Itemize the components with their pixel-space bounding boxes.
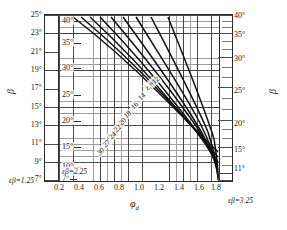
left-axis-tick-label: 19° <box>22 65 42 74</box>
inner-scale-tick-label: 20° <box>61 116 74 125</box>
plot-area: 40° 35° 30° 25° 20° 15° 10° 7° εβ=2.25 z… <box>58 14 220 182</box>
left-axis-tick-label: 13° <box>22 120 42 129</box>
x-axis-tick-label: 1.8 <box>211 184 221 192</box>
right-axis-tick-label: 15° <box>234 145 245 154</box>
epsilon-beta-left-label: εβ=1.25 <box>9 176 34 185</box>
left-axis-tick-label: 17° <box>22 83 42 92</box>
x-axis-title: φd <box>130 198 139 211</box>
x-axis-tick-label: 0.4 <box>74 184 84 192</box>
left-axis-tick-label: 11° <box>22 138 42 147</box>
left-axis-tick-label: 15° <box>22 102 42 111</box>
x-axis-tick-label: 0.6 <box>94 184 104 192</box>
x-axis-tick-label: 1.4 <box>174 184 184 192</box>
right-axis-tick-label: 40° <box>234 11 245 20</box>
chart-figure: 25° 23° 21° 19° 17° 15° 13° 11° 9° 7° β … <box>0 0 287 230</box>
inner-scale-tick-label: 15° <box>61 142 74 151</box>
x-axis-tick-label: 0.8 <box>114 184 124 192</box>
left-axis-tick-label: 23° <box>22 28 42 37</box>
x-axis-tick-label: 1.2 <box>154 184 164 192</box>
epsilon-beta-right-label: εβ=3.25 <box>228 196 253 205</box>
left-axis-scale <box>44 14 59 182</box>
x-axis-tick-label: 0.2 <box>54 184 64 192</box>
inner-scale-tick-label: 25° <box>61 90 74 99</box>
inner-scale-tick-label: 40° <box>61 16 74 25</box>
x-axis-tick-label: 1.0 <box>134 184 144 192</box>
left-axis-tick-label: 25° <box>22 10 42 19</box>
y-axis-title-right: β <box>267 86 278 98</box>
epsilon-beta-inner-label: εβ=2.25 <box>62 167 87 176</box>
right-axis-tick-label: 25° <box>234 86 245 95</box>
right-axis-tick-label: 11° <box>234 164 245 173</box>
y-axis-title-left: β <box>5 86 16 98</box>
x-axis-title-subscript: d <box>136 204 139 211</box>
inner-scale-tick-label: 30° <box>61 63 74 72</box>
x-axis-tick-label: 1.6 <box>194 184 204 192</box>
right-axis-tick-label: 20° <box>234 119 245 128</box>
left-axis-tick-label: 9° <box>22 157 42 166</box>
right-axis-tick-label: 35° <box>234 30 245 39</box>
inner-scale-tick-label: 35° <box>61 38 74 47</box>
left-axis-tick-label: 21° <box>22 47 42 56</box>
right-axis-tick-label: 30° <box>234 54 245 63</box>
right-axis-scale <box>218 14 233 182</box>
